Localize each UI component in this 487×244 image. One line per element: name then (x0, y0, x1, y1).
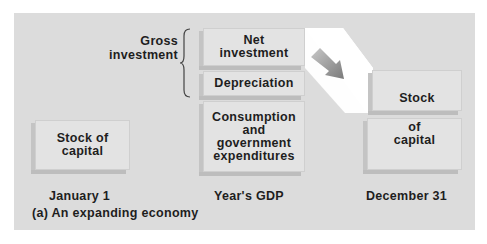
box-line: and (212, 124, 296, 137)
figure-caption: (a) An expanding economy (32, 207, 198, 220)
box-line: expenditures (212, 150, 296, 163)
box-line: investment (220, 47, 289, 60)
stock-top-box: Stock (372, 70, 462, 111)
net-investment-box: Net investment (203, 28, 305, 66)
december-label: December 31 (366, 190, 447, 203)
box-line: capital (394, 134, 436, 147)
box-line: Stock (399, 92, 435, 105)
gross-investment-label: Gross investment (109, 34, 178, 62)
box-line: capital (57, 145, 109, 158)
box-line: government (212, 137, 296, 150)
depreciation-box: Depreciation (203, 71, 305, 96)
curly-brace-icon (180, 28, 192, 98)
gross-line-1: Gross (109, 34, 178, 48)
consumption-government-box: Consumption and government expenditures (203, 101, 305, 172)
gross-line-2: investment (109, 48, 178, 62)
box-line: Depreciation (214, 77, 293, 90)
stock-of-capital-jan-box: Stock of capital (35, 120, 130, 170)
january-label: January 1 (49, 190, 110, 203)
box-line: Consumption (212, 111, 296, 124)
stock-bottom-box: of capital (367, 118, 462, 170)
years-gdp-label: Year's GDP (214, 190, 284, 203)
